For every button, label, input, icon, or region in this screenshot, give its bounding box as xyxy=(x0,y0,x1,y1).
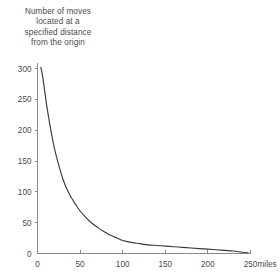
y-tick-label: 50 xyxy=(22,219,32,228)
x-tick-label: 0 xyxy=(35,260,40,269)
y-tick-label: 0 xyxy=(27,250,32,259)
chart-title-line-2: located at a xyxy=(6,17,110,27)
x-tick-label: 50 xyxy=(76,260,86,269)
y-axis: 050100150200250300 xyxy=(18,63,38,259)
chart-title: Number of moves located at a specified d… xyxy=(6,7,110,49)
data-series-line xyxy=(41,67,248,252)
y-tick-label: 100 xyxy=(18,188,32,197)
x-axis-unit-label: miles xyxy=(258,260,277,269)
x-tick-label: 250 xyxy=(244,260,258,269)
y-tick-label: 150 xyxy=(18,157,32,166)
y-tick-label: 300 xyxy=(18,65,32,74)
x-tick-label: 100 xyxy=(116,260,130,269)
x-axis-unit: miles xyxy=(258,260,277,269)
y-tick-label: 250 xyxy=(18,95,32,104)
x-tick-label: 150 xyxy=(158,260,172,269)
chart-title-line-1: Number of moves xyxy=(6,7,110,17)
x-axis: 050100150200250 xyxy=(35,250,258,269)
chart-figure: Number of moves located at a specified d… xyxy=(0,0,280,280)
y-tick-label: 200 xyxy=(18,126,32,135)
x-tick-label: 200 xyxy=(201,260,215,269)
chart-title-line-3: specified distance xyxy=(6,28,110,38)
chart-title-line-4: from the origin xyxy=(6,38,110,48)
series-path xyxy=(41,67,248,252)
